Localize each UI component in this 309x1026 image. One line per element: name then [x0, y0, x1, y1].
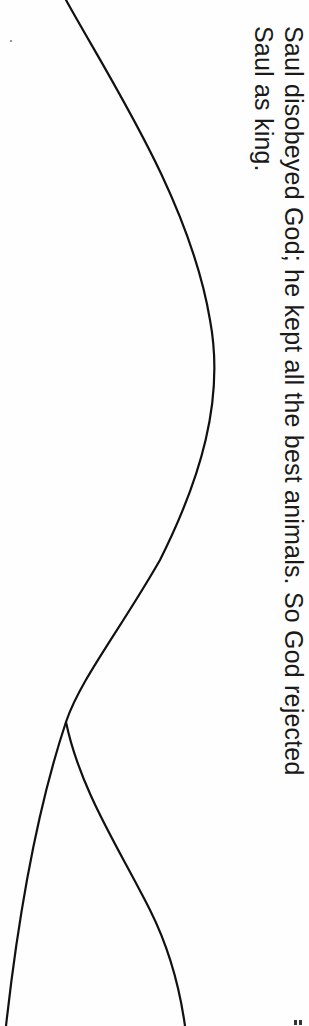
caption-line-2: Saul as king. — [249, 26, 279, 1026]
worksheet-page: Saul disobeyed God; he kept all the best… — [0, 0, 309, 1026]
right-branch-curve — [66, 722, 185, 1026]
main-curve — [66, 0, 214, 722]
scan-speck — [10, 40, 12, 42]
caption-line-1: Saul disobeyed God; he kept all the best… — [279, 26, 309, 1026]
registration-mark-icon — [294, 1020, 302, 1025]
worksheet-caption: Saul disobeyed God; he kept all the best… — [249, 26, 309, 1026]
left-branch-curve — [6, 722, 66, 1026]
